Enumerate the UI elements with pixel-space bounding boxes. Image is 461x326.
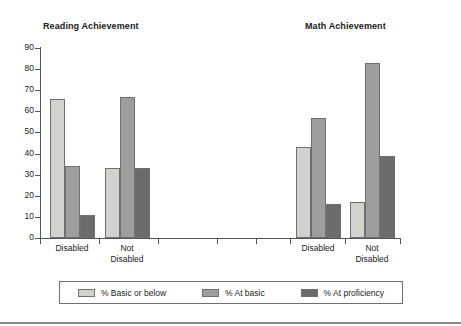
bar-2-3: [380, 156, 395, 238]
x-axis-line: [40, 238, 257, 239]
y-axis-tick-label: 60: [2, 106, 34, 115]
y-axis-tick: [35, 154, 40, 155]
bar-2-0: [80, 215, 95, 238]
y-axis-tick-label: 30: [2, 170, 34, 179]
bar-0-3: [350, 202, 365, 238]
legend-item-2: % At proficiency: [301, 288, 384, 298]
y-axis-labels: 0102030405060708090: [0, 0, 34, 326]
legend-item-0: % Basic or below: [78, 288, 166, 298]
bar-1-2: [311, 118, 326, 238]
bar-1-3: [365, 63, 380, 238]
y-axis-tick-label: 80: [2, 64, 34, 73]
panel-title-reading: Reading Achievement: [43, 21, 139, 31]
y-axis-tick: [35, 48, 40, 49]
bar-0-2: [296, 147, 311, 238]
y-axis-tick-label: 50: [2, 127, 34, 136]
x-axis-label-line2: Disabled: [332, 254, 412, 265]
legend-label: % Basic or below: [101, 288, 166, 298]
legend-label: % At proficiency: [324, 288, 384, 298]
bar-2-1: [135, 168, 150, 238]
x-axis-tick: [256, 239, 257, 244]
y-axis-tick: [35, 175, 40, 176]
bottom-divider: [0, 322, 461, 324]
y-axis-tick-label: 0: [2, 233, 34, 242]
x-axis-label-line2: Disabled: [87, 254, 167, 265]
chart-figure: Reading Achievement Math Achievement 010…: [0, 0, 461, 326]
x-axis-label-3: NotDisabled: [332, 243, 412, 265]
y-axis-tick: [35, 69, 40, 70]
y-axis-line: [40, 47, 41, 239]
y-axis-tick: [35, 111, 40, 112]
legend-swatch-icon: [202, 289, 219, 297]
x-axis-line-right: [256, 238, 401, 239]
panel-title-math: Math Achievement: [305, 21, 386, 31]
x-axis-label-line1: Not: [332, 243, 412, 254]
bar-0-0: [50, 99, 65, 238]
bar-1-0: [65, 166, 80, 238]
chart-legend: % Basic or below% At basic% At proficien…: [59, 281, 403, 304]
y-axis-tick-label: 10: [2, 212, 34, 221]
legend-label: % At basic: [225, 288, 265, 298]
legend-swatch-icon: [78, 289, 95, 297]
x-axis-tick: [217, 239, 218, 244]
y-axis-tick-label: 40: [2, 149, 34, 158]
y-axis-tick: [35, 132, 40, 133]
bar-1-1: [120, 97, 135, 238]
legend-item-1: % At basic: [202, 288, 265, 298]
y-axis-tick-label: 20: [2, 191, 34, 200]
x-axis-label-line1: Not: [87, 243, 167, 254]
bar-2-2: [326, 204, 341, 238]
y-axis-tick: [35, 217, 40, 218]
y-axis-tick: [35, 90, 40, 91]
legend-swatch-icon: [301, 289, 318, 297]
x-axis-label-1: NotDisabled: [87, 243, 167, 265]
y-axis-tick: [35, 196, 40, 197]
y-axis-tick-label: 90: [2, 43, 34, 52]
y-axis-tick-label: 70: [2, 85, 34, 94]
bar-0-1: [105, 168, 120, 238]
